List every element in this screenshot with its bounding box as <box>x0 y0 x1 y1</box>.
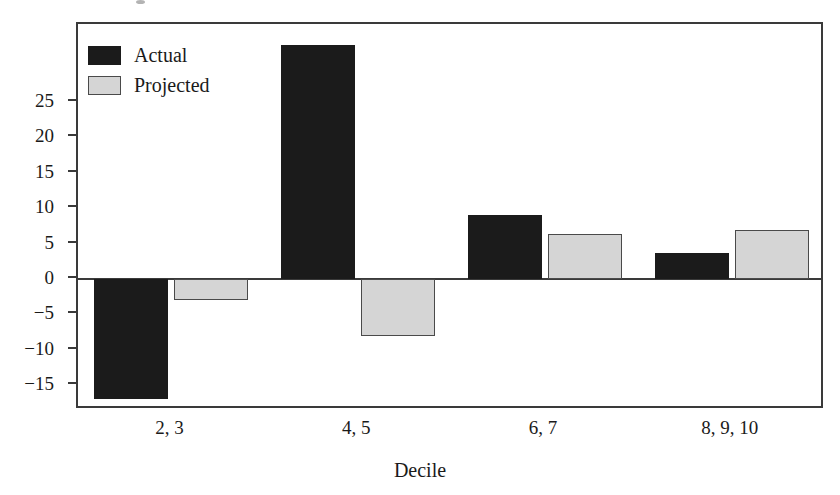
bar-chart-figure: 2520151050−5−10−15 2, 34, 56, 78, 9, 10 … <box>0 0 840 495</box>
y-axis-tick-label: −10 <box>24 338 54 357</box>
x-axis-tick-label: 8, 9, 10 <box>701 418 758 437</box>
x-axis-tick-label: 6, 7 <box>529 418 558 437</box>
bar-actual-decile-4-5 <box>281 45 355 279</box>
bar-actual-decile-8-9-10 <box>655 253 729 279</box>
y-axis-tick-label: 15 <box>35 161 54 180</box>
y-axis-tick-label: 5 <box>45 232 55 251</box>
y-axis-tick-label: 10 <box>35 197 54 216</box>
y-axis-tick-label: 0 <box>45 267 55 286</box>
bar-actual-decile-6-7 <box>468 215 542 279</box>
legend-item-label: Projected <box>134 75 210 95</box>
bar-projected-decile-8-9-10 <box>735 230 809 279</box>
bar-actual-decile-2-3 <box>94 279 168 399</box>
x-axis-tick-label: 2, 3 <box>155 418 184 437</box>
x-axis-tick-label: 4, 5 <box>342 418 371 437</box>
x-axis-title: Decile <box>0 460 840 480</box>
y-axis-tick-label: 20 <box>35 126 54 145</box>
legend-item-actual: Actual <box>88 40 210 70</box>
bar-projected-decile-2-3 <box>174 279 248 300</box>
y-axis-tick-label: −5 <box>34 303 54 322</box>
y-axis-tick-label: −15 <box>24 374 54 393</box>
legend-item-label: Actual <box>134 45 187 65</box>
legend-item-projected: Projected <box>88 70 210 100</box>
chart-legend: ActualProjected <box>88 40 210 100</box>
legend-swatch-actual <box>88 46 121 65</box>
legend-swatch-projected <box>88 76 121 95</box>
scan-artifact <box>136 0 145 4</box>
bar-projected-decile-6-7 <box>548 234 622 279</box>
y-axis-tick-label: 25 <box>35 90 54 109</box>
bar-projected-decile-4-5 <box>361 279 435 336</box>
y-axis: 2520151050−5−10−15 <box>0 0 76 495</box>
